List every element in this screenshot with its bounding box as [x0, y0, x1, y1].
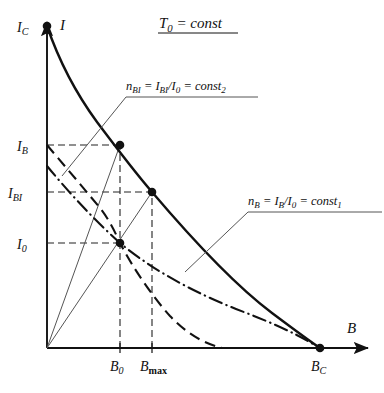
y-tick-label-I_C: IC — [16, 20, 29, 37]
marker-I_0 — [116, 239, 125, 248]
figure-container: T0 = const I B IC IB IBI I0 B0 Bmax BC n… — [0, 0, 384, 393]
marker-I_C — [43, 22, 52, 31]
marker-B_C — [316, 344, 325, 353]
chart-title: T0 = const — [159, 15, 223, 34]
x-tick-label-B_0: B0 — [110, 359, 124, 376]
x-tick-label-B_C: BC — [311, 359, 327, 376]
x-axis-label: B — [347, 320, 356, 336]
y-tick-label-I_BI: IBI — [7, 186, 23, 203]
leader-n-B — [185, 212, 382, 272]
critical-curve — [47, 26, 320, 348]
n-BI-curve — [47, 145, 222, 348]
leader-n-BI — [62, 97, 258, 176]
chart-title-group: T0 = const — [158, 15, 238, 34]
y-tick-label-I_B: IB — [16, 139, 28, 156]
marker-I_B — [116, 141, 125, 150]
annotation-n-BI-text: nBI = IBI/I0 = const2 — [126, 79, 226, 95]
axes-group — [47, 22, 368, 348]
y-axis-label: I — [59, 17, 66, 33]
y-tick-label-I_0: I0 — [16, 237, 27, 254]
leader-lines-group — [62, 97, 382, 272]
plot-svg: T0 = const I B IC IB IBI I0 B0 Bmax BC n… — [0, 0, 384, 393]
n-B-curve — [47, 166, 320, 348]
marker-group — [43, 22, 325, 353]
x-tick-label-B_max: Bmax — [140, 359, 167, 376]
marker-I_BI — [148, 188, 157, 197]
ray-to-I_B — [47, 145, 120, 348]
annotation-n-B-text: nB = IB/I0 = const1 — [248, 194, 342, 210]
